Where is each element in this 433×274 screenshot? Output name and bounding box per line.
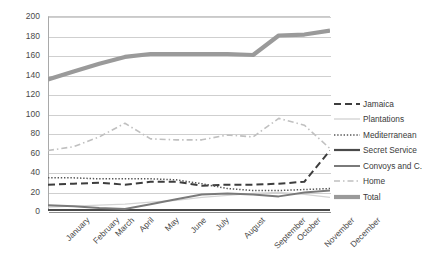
- y-axis-tick-label: 140: [6, 70, 40, 80]
- legend-item-label: Secret Service: [363, 145, 417, 155]
- x-axis-baseline: [49, 212, 331, 213]
- legend-item-total[interactable]: Total: [334, 189, 433, 205]
- y-axis-tick-label: 180: [6, 31, 40, 41]
- y-axis-tick-label: 100: [6, 109, 40, 119]
- legend-item-plantations[interactable]: Plantations: [334, 112, 433, 128]
- x-axis-tick-label: July: [213, 215, 231, 233]
- y-axis-tick-label: 20: [6, 187, 40, 197]
- chart-legend: JamaicaPlantationsMediterraneanSecret Se…: [334, 96, 433, 205]
- y-axis-tick-label: 80: [6, 128, 40, 138]
- y-axis-tick-label: 160: [6, 50, 40, 60]
- x-axis-tick-label: April: [137, 215, 156, 234]
- y-axis-tick-label: 200: [6, 11, 40, 21]
- y-axis-tick-label: 0: [6, 206, 40, 216]
- legend-item-label: Convoys and C.: [363, 161, 422, 171]
- legend-swatch-icon: [334, 176, 360, 186]
- y-axis-tick-label: 60: [6, 148, 40, 158]
- y-axis-tick-label: 120: [6, 89, 40, 99]
- legend-item-secret-service[interactable]: Secret Service: [334, 143, 433, 159]
- series-layer: [48, 16, 330, 211]
- legend-item-label: Home: [363, 176, 385, 186]
- x-axis-tick-label: January: [64, 215, 92, 243]
- legend-swatch-icon: [334, 161, 360, 171]
- x-axis-tick-label: May: [162, 215, 180, 233]
- legend-swatch-icon: [334, 145, 360, 155]
- y-axis-tick-label: 40: [6, 167, 40, 177]
- series-line-total: [48, 31, 330, 80]
- legend-item-label: Mediterranean: [363, 130, 417, 140]
- legend-item-mediterranean[interactable]: Mediterranean: [334, 127, 433, 143]
- legend-swatch-icon: [334, 99, 360, 109]
- legend-item-home[interactable]: Home: [334, 174, 433, 190]
- legend-swatch-icon: [334, 114, 360, 124]
- legend-item-convoys-and-c[interactable]: Convoys and C.: [334, 158, 433, 174]
- legend-item-label: Jamaica: [363, 99, 394, 109]
- series-line-mediterranean: [48, 178, 330, 191]
- x-axis-tick-label: June: [188, 215, 208, 235]
- legend-swatch-icon: [334, 192, 360, 202]
- series-line-jamaica: [48, 151, 330, 186]
- legend-item-label: Plantations: [363, 114, 404, 124]
- legend-swatch-icon: [334, 130, 360, 140]
- legend-item-label: Total: [363, 192, 381, 202]
- series-line-home: [48, 118, 330, 150]
- legend-item-jamaica[interactable]: Jamaica: [334, 96, 433, 112]
- x-axis-tick-label: August: [242, 215, 267, 240]
- line-chart: 200180160140120100806040200 JanuaryFebru…: [0, 0, 433, 274]
